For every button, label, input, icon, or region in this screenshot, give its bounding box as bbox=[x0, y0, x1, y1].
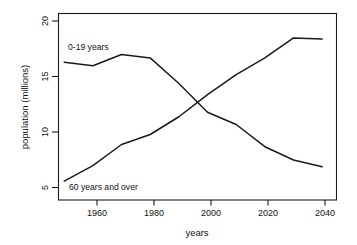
series-line-0-19-years bbox=[64, 55, 322, 167]
x-axis-tick-labels: 1960 1980 2000 2020 2040 bbox=[87, 208, 335, 218]
series-annotation-60-years-and-over: 60 years and over bbox=[69, 182, 138, 192]
x-tick-label-2040: 2040 bbox=[315, 208, 335, 218]
y-tick-label-5: 5 bbox=[40, 185, 50, 190]
x-axis-title: years bbox=[185, 227, 208, 238]
series-annotation-0-19-years: 0-19 years bbox=[68, 42, 109, 52]
y-tick-label-15: 15 bbox=[40, 71, 50, 81]
x-tick-label-1980: 1980 bbox=[144, 208, 164, 218]
x-tick-label-2000: 2000 bbox=[201, 208, 221, 218]
chart-canvas: 20 15 10 5 population (millions) 1960 19… bbox=[0, 0, 357, 245]
x-tick-label-2020: 2020 bbox=[258, 208, 278, 218]
y-axis-ticks bbox=[52, 21, 59, 188]
y-tick-label-10: 10 bbox=[40, 127, 50, 137]
x-tick-label-1960: 1960 bbox=[87, 208, 107, 218]
x-axis-ticks bbox=[97, 200, 325, 206]
y-tick-label-20: 20 bbox=[40, 16, 50, 26]
y-axis-title: population (millions) bbox=[19, 65, 30, 149]
population-line-chart: 20 15 10 5 population (millions) 1960 19… bbox=[0, 0, 357, 245]
series-line-60-years-and-over bbox=[64, 38, 322, 181]
y-axis-tick-labels: 20 15 10 5 bbox=[40, 16, 50, 190]
